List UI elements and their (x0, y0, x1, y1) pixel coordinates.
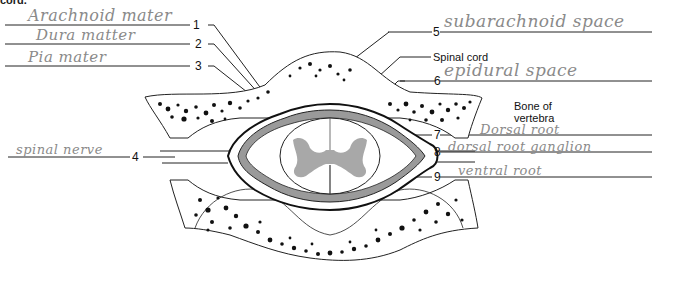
label-number-8: 8 (434, 146, 441, 158)
diagram-worksheet: cord. (0, 0, 681, 296)
label-number-4: 4 (132, 151, 139, 163)
answer-2-dura-mater: Dura matter (36, 28, 135, 43)
label-number-5: 5 (433, 26, 440, 38)
answer-7-dorsal-root: Dorsal root (480, 122, 560, 137)
answer-9-ventral-root: ventral root (458, 163, 542, 178)
answer-1-arachnoid-mater: Arachnoid mater (28, 8, 172, 23)
bone-of-vertebra-label-line1: Bone of (514, 100, 552, 112)
label-number-6: 6 (434, 75, 441, 87)
answer-4-spinal-nerve: spinal nerve (16, 142, 103, 157)
answer-8-dorsal-root-ganglion: dorsal root ganglion (448, 139, 592, 154)
label-number-9: 9 (434, 171, 441, 183)
label-number-1: 1 (193, 19, 200, 31)
answer-3-pia-mater: Pia mater (28, 50, 106, 65)
answer-6-epidural-space: epidural space (444, 63, 578, 78)
label-number-2: 2 (195, 38, 202, 50)
label-number-3: 3 (195, 60, 202, 72)
answer-5-subarachnoid-space: subarachnoid space (444, 14, 625, 29)
label-number-7: 7 (434, 129, 441, 141)
